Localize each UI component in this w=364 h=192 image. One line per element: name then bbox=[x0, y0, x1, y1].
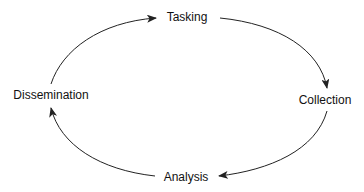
arrow-tasking-to-collection bbox=[220, 18, 327, 88]
arrow-analysis-to-dissemination bbox=[51, 108, 155, 176]
arrow-collection-to-analysis bbox=[219, 111, 327, 176]
node-analysis: Analysis bbox=[164, 170, 209, 184]
arrow-dissemination-to-tasking bbox=[51, 18, 156, 84]
node-collection: Collection bbox=[299, 93, 352, 107]
node-tasking: Tasking bbox=[167, 10, 208, 24]
intelligence-cycle-diagram: Tasking Collection Analysis Disseminatio… bbox=[0, 0, 364, 192]
node-dissemination: Dissemination bbox=[13, 88, 88, 102]
